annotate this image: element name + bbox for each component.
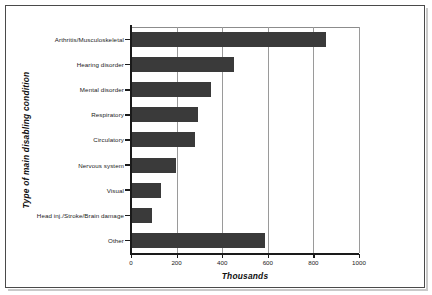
bar-row (131, 203, 359, 228)
x-axis-title: Thousands (131, 271, 359, 281)
bar-row (131, 27, 359, 52)
y-tick-label: Visual (107, 187, 124, 194)
y-tick-label: Arthritis/Musculoskeletal (55, 36, 124, 43)
x-tick-label: 200 (171, 259, 181, 266)
x-tick (268, 254, 269, 258)
x-tick (131, 254, 132, 258)
plot-area (131, 27, 359, 253)
y-tick (125, 89, 130, 91)
y-tick-label: Circulatory (93, 136, 124, 143)
bar (131, 208, 152, 223)
bar (131, 82, 211, 97)
bar-row (131, 127, 359, 152)
y-axis-line (130, 25, 132, 255)
bar (131, 233, 265, 248)
y-tick (125, 114, 130, 116)
x-tick (359, 254, 360, 258)
x-tick (313, 254, 314, 258)
bar-row (131, 102, 359, 127)
y-tick (125, 164, 130, 166)
bar (131, 107, 198, 122)
y-tick (125, 64, 130, 66)
x-tick-label: 400 (217, 259, 227, 266)
y-tick-label: Head inj./Stroke/Brain damage (37, 212, 124, 219)
gridline-1000 (359, 27, 360, 253)
x-tick-label: 0 (129, 259, 132, 266)
bar-row (131, 153, 359, 178)
bar (131, 57, 234, 72)
bar (131, 183, 161, 198)
x-tick-label: 1000 (352, 259, 366, 266)
bar (131, 132, 195, 147)
bar-chart-figure: Arthritis/MusculoskeletalHearing disorde… (0, 0, 432, 295)
x-tick (177, 254, 178, 258)
y-tick-label: Nervous system (78, 162, 124, 169)
figure-border-shadow-right (426, 8, 428, 291)
bar-row (131, 178, 359, 203)
y-tick (125, 189, 130, 191)
figure-border-shadow-bottom (8, 289, 428, 291)
y-tick (125, 139, 130, 141)
y-tick-label: Respiratory (91, 111, 124, 118)
x-tick (222, 254, 223, 258)
y-tick (125, 240, 130, 242)
y-axis-title: Type of main disabling condition (21, 72, 31, 209)
y-tick-label: Hearing disorder (77, 61, 124, 68)
y-tick (125, 215, 130, 217)
y-tick-label: Other (108, 237, 124, 244)
y-axis-title-container: Type of main disabling condition (19, 40, 33, 240)
bar-row (131, 228, 359, 253)
bar-row (131, 52, 359, 77)
bar (131, 158, 176, 173)
x-tick-label: 600 (263, 259, 273, 266)
y-tick-label: Mental disorder (80, 86, 124, 93)
bar-row (131, 77, 359, 102)
x-tick-label: 800 (308, 259, 318, 266)
bar (131, 32, 326, 47)
x-axis-line (130, 253, 359, 255)
y-tick (125, 39, 130, 41)
